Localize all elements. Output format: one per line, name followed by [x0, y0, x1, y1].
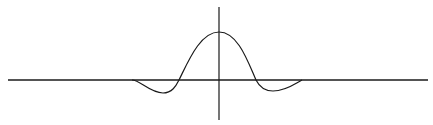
wavelet-curve — [132, 32, 302, 93]
wavelet-figure — [0, 0, 433, 125]
